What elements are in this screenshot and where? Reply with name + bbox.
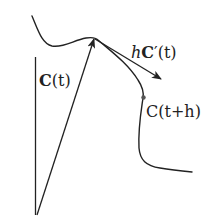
label-c: C (146, 102, 158, 121)
label-args: ′(t) (154, 43, 177, 62)
label-position-vector: C(t) (39, 71, 71, 90)
position-vector-arrow (37, 39, 94, 215)
label-nearby-point: C(t+h) (146, 102, 201, 121)
point-c-t-plus-h (141, 95, 145, 99)
label-italic-h: h (131, 43, 141, 62)
curve-c (32, 16, 192, 172)
curve-tangent-diagram: C(t) hC′(t) C(t+h) (0, 0, 207, 217)
label-tangent-vector: hC′(t) (131, 43, 177, 62)
label-bold-c: C (141, 43, 154, 62)
label-args: (t+h) (158, 102, 201, 121)
label-bold-c: C (39, 71, 52, 90)
label-args: (t) (52, 71, 71, 90)
